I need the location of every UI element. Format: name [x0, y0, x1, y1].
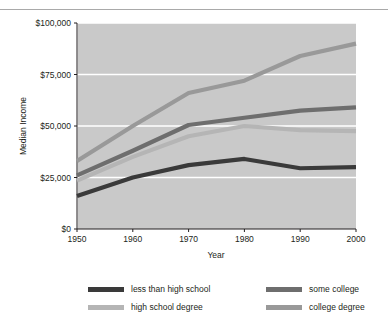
median-income-line-chart: $0$25,000$50,000$75,000$100,000 19501960… — [0, 0, 388, 325]
legend-swatch-icon-some-college — [266, 287, 302, 292]
legend-item-less-than-high-school[interactable]: less than high school — [88, 284, 266, 294]
y-axis-tick-labels: $0$25,000$50,000$75,000$100,000 — [36, 18, 72, 234]
y-tick-label-25000: $25,000 — [40, 173, 71, 183]
x-tick-label-2000: 2000 — [347, 234, 366, 244]
y-tick-label-50000: $50,000 — [40, 121, 71, 131]
y-tick-label-0: $0 — [62, 224, 72, 234]
legend-swatch-icon-high-school-degree — [88, 305, 124, 310]
x-axis-tick-labels: 195019601970198019902000 — [68, 234, 366, 244]
legend-label-college-degree: college degree — [309, 302, 365, 312]
chart-legend: less than high school some college high … — [88, 280, 378, 316]
legend-item-some-college[interactable]: some college — [266, 284, 378, 294]
y-axis-title: Median Income — [18, 97, 28, 155]
legend-label-high-school-degree: high school degree — [131, 302, 203, 312]
y-tick-label-75000: $75,000 — [40, 70, 71, 80]
chart-figure: $0$25,000$50,000$75,000$100,000 19501960… — [0, 0, 388, 325]
x-tick-label-1970: 1970 — [179, 234, 198, 244]
x-tick-label-1960: 1960 — [123, 234, 142, 244]
legend-swatch-icon-college-degree — [266, 305, 302, 310]
x-tick-label-1950: 1950 — [68, 234, 87, 244]
x-tick-label-1980: 1980 — [235, 234, 254, 244]
x-tick-label-1990: 1990 — [291, 234, 310, 244]
x-axis-title: Year — [207, 250, 224, 260]
legend-item-college-degree[interactable]: college degree — [266, 302, 378, 312]
legend-swatch-icon-less-than-high-school — [88, 287, 124, 292]
y-tick-label-100000: $100,000 — [36, 18, 72, 28]
legend-item-high-school-degree[interactable]: high school degree — [88, 302, 266, 312]
plot-area-container: $0$25,000$50,000$75,000$100,000 19501960… — [0, 0, 388, 325]
legend-label-less-than-high-school: less than high school — [131, 284, 210, 294]
legend-label-some-college: some college — [309, 284, 359, 294]
